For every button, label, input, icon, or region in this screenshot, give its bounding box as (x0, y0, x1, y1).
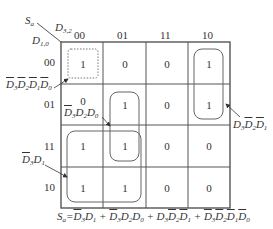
row-var-label: D1,0 (32, 34, 49, 48)
col-header-01: 01 (117, 29, 128, 41)
row-header-01: 01 (44, 98, 55, 110)
cell-r2-c0: 1 (62, 125, 104, 166)
cell-r3-c2: 0 (146, 167, 188, 208)
group-label-d3n-d1: D3D1 (22, 153, 45, 167)
cell-r0-c3: 1 (188, 43, 230, 84)
cell-r0-c2: 0 (146, 43, 188, 84)
cell-r1-c3: 1 (188, 84, 230, 125)
cell-r2-c3: 0 (188, 125, 230, 166)
cell-r0-c1: 0 (104, 43, 146, 84)
col-header-00: 00 (74, 29, 85, 41)
row-header-00: 00 (44, 56, 55, 68)
col-var-label: D3,2 (55, 21, 72, 35)
equation: Sa=D3D1 + D3D2D0 + D3D2D1 + D3D2D1D0 (57, 210, 250, 224)
col-header-10: 10 (202, 29, 213, 41)
row-header-10: 10 (44, 181, 55, 193)
group-label-d3-d2n-d1n: D3D2D1 (233, 118, 267, 132)
cell-r3-c1: 1 (104, 167, 146, 208)
cell-r3-c0: 1 (62, 167, 104, 208)
cell-r2-c1: 1 (104, 125, 146, 166)
cell-r0-c0: 1 (62, 43, 104, 84)
cell-r3-c3: 0 (188, 167, 230, 208)
group-label-d3n-d2-d0: D3D2D0 (64, 106, 98, 120)
col-header-11: 11 (160, 29, 171, 41)
cell-r1-c2: 0 (146, 84, 188, 125)
output-var-label: Sa (25, 14, 34, 28)
cell-r1-c1: 1 (104, 84, 146, 125)
cell-r2-c2: 0 (146, 125, 188, 166)
group-label-d3n-d2n-d1n-d0n: D3D2D1D0 (6, 78, 52, 92)
row-header-11: 11 (44, 140, 55, 152)
